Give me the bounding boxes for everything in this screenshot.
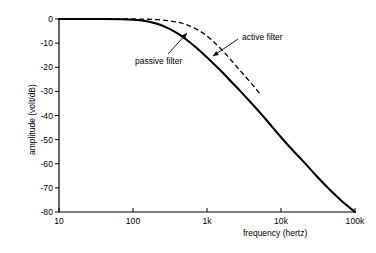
- x-tick-label: 10: [39, 216, 79, 226]
- y-tick-label: -10: [17, 38, 53, 48]
- y-tick-label: -30: [17, 86, 53, 96]
- y-tick-label: -20: [17, 62, 53, 72]
- x-tick-label: 1k: [187, 216, 227, 226]
- annotation-passive-filter: passive filter: [135, 56, 182, 66]
- x-tick-label: 10k: [261, 216, 301, 226]
- annotation-active-filter: active filter: [242, 32, 283, 42]
- x-axis-title: frequency (hertz): [243, 228, 307, 238]
- y-tick-label: -50: [17, 135, 53, 145]
- x-tick-label: 100k: [335, 216, 375, 226]
- y-tick-label: -60: [17, 159, 53, 169]
- curve-passive-filter: [59, 19, 355, 212]
- y-tick-label: 0: [17, 14, 53, 24]
- y-tick-label: -40: [17, 111, 53, 121]
- annotation-arrowhead: [213, 51, 219, 56]
- figure-container: amplitude (volt/dB) frequency (hertz) ac…: [0, 0, 376, 253]
- x-tick-label: 100: [113, 216, 153, 226]
- y-tick-label: -70: [17, 183, 53, 193]
